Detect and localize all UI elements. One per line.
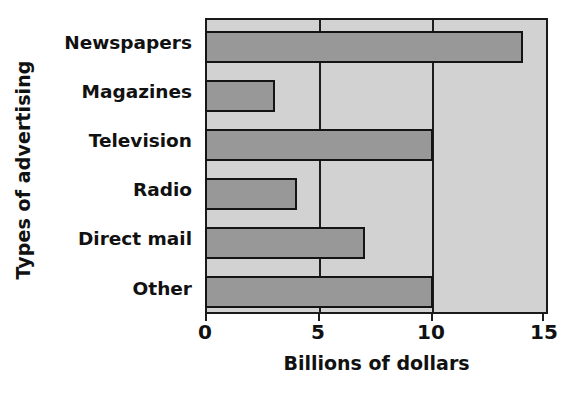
bar-newspapers	[205, 31, 523, 63]
tick-label-5: 5	[288, 320, 348, 344]
category-axis-labels: Newspapers Magazines Television Radio Di…	[40, 18, 198, 314]
bar-other	[205, 276, 433, 308]
bar-radio	[205, 178, 297, 210]
bar-direct-mail	[205, 227, 365, 259]
x-axis-title: Billions of dollars	[205, 352, 548, 374]
bar-television	[205, 129, 433, 161]
category-label-other: Other	[133, 279, 192, 299]
bar-chart: Types of advertising Newspapers Magazine…	[0, 0, 580, 399]
category-label-newspapers: Newspapers	[64, 33, 192, 53]
x-axis-tick-labels: 0 5 10 15	[155, 320, 580, 346]
tick-label-0: 0	[175, 320, 235, 344]
gridline-10	[432, 20, 434, 312]
plot-area	[205, 18, 548, 314]
y-axis-title: Types of advertising	[6, 20, 40, 320]
category-label-magazines: Magazines	[82, 82, 192, 102]
category-label-direct-mail: Direct mail	[78, 229, 192, 249]
tick-label-10: 10	[401, 320, 461, 344]
category-label-radio: Radio	[133, 180, 192, 200]
gridline-5	[319, 20, 321, 312]
tick-label-15: 15	[514, 320, 574, 344]
category-label-television: Television	[89, 131, 192, 151]
bar-magazines	[205, 80, 275, 112]
